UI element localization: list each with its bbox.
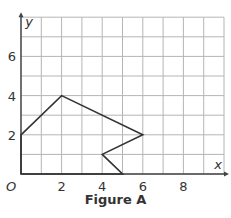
y-tick-label: 4 (8, 89, 16, 104)
y-tick-label: 2 (8, 128, 16, 143)
x-axis-label: x (213, 157, 222, 172)
grid-lines (21, 17, 224, 174)
y-tick-label: 6 (8, 49, 16, 64)
axis-labels: 2468246Oxy (6, 14, 222, 194)
coordinate-grid: 2468246Oxy (0, 0, 231, 218)
figure-caption: Figure A (0, 192, 231, 207)
x-axis-arrow-icon (224, 172, 229, 177)
y-axis-arrow-icon (19, 12, 24, 17)
y-axis-label: y (24, 14, 33, 29)
